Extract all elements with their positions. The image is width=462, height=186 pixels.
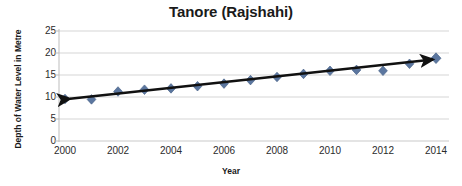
gridlines: [59, 31, 449, 141]
data-point-2000: [61, 94, 70, 104]
data-point-2014: [431, 53, 441, 64]
plot-area: [0, 0, 462, 186]
trendline: [70, 60, 433, 99]
data-point-2013: [405, 59, 414, 69]
data-point-2012: [379, 66, 388, 76]
chart-container: Tanore (Rajshahi) Depth of Water Level i…: [0, 0, 462, 186]
y-axis: [55, 29, 59, 142]
